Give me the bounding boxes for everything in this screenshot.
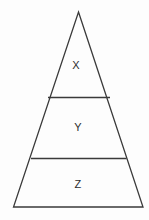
tier-label-z: Z: [75, 178, 82, 190]
pyramid-svg: X Y Z: [0, 0, 149, 220]
tier-label-y: Y: [74, 121, 82, 133]
tier-label-x: X: [72, 59, 80, 71]
pyramid-diagram: X Y Z: [0, 0, 149, 220]
